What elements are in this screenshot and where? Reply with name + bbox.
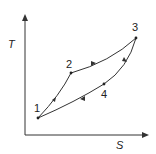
x-axis-arrow-icon — [142, 132, 149, 138]
direction-arrows — [52, 57, 127, 102]
point-2 — [70, 72, 73, 75]
point-label-1: 1 — [34, 102, 40, 114]
x-axis-label: S — [116, 139, 124, 151]
axes — [25, 20, 145, 135]
point-3 — [135, 37, 138, 40]
process-2-3 — [71, 38, 136, 73]
point-1 — [37, 117, 40, 120]
point-4 — [103, 83, 106, 86]
y-axis-arrow-icon — [22, 14, 28, 21]
point-label-4: 4 — [101, 88, 107, 100]
point-label-3: 3 — [132, 21, 138, 33]
process-3-4 — [104, 38, 136, 84]
y-axis-label: T — [8, 38, 16, 50]
process-4-1 — [38, 84, 104, 118]
arrow-3-4-icon — [122, 57, 127, 62]
point-label-2: 2 — [66, 58, 72, 70]
process-1-2 — [38, 73, 71, 118]
cycle-paths — [38, 38, 136, 118]
ts-diagram: T S 1 2 3 4 — [0, 0, 156, 154]
